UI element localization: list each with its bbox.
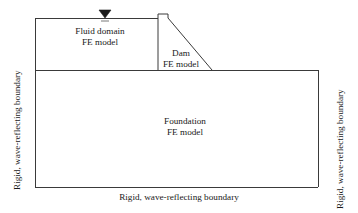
foundation-label: Foundation FE model [130,116,240,138]
figure-container: Fluid domain FE model Dam FE model Found… [0,0,358,213]
bottom-boundary-label: Rigid, wave-reflecting boundary [79,192,279,203]
water-level-triangle-icon [99,10,111,18]
dam-label-line2: FE model [150,59,212,70]
fluid-domain-label-line1: Fluid domain [45,26,155,37]
dam-label: Dam FE model [150,48,212,70]
fluid-domain-label: Fluid domain FE model [45,26,155,48]
water-level-icon [99,10,111,21]
fluid-domain-label-line2: FE model [45,37,155,48]
left-boundary-label: Rigid, wave-reflecting boundary [12,70,22,190]
foundation-label-line2: FE model [130,127,240,138]
dam-label-line1: Dam [150,48,212,59]
foundation-label-line1: Foundation [130,116,240,127]
right-boundary-label: Rigid, wave-reflecting boundary [335,89,345,209]
